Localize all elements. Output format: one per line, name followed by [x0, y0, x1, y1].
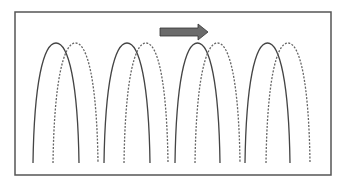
solid-arches [33, 43, 290, 163]
right-arrow-icon [160, 24, 208, 40]
wave-diagram [0, 0, 342, 185]
diagram-frame [15, 12, 331, 175]
dashed-arch [266, 43, 310, 163]
solid-arch [245, 43, 290, 163]
dashed-arches [53, 43, 310, 163]
dashed-arch [124, 43, 168, 163]
